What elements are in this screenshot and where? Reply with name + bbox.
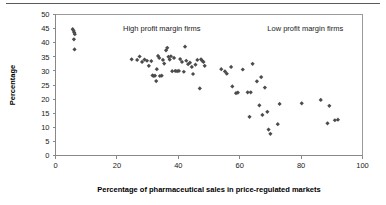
data-point-marker	[230, 84, 234, 88]
y-tick-label: 30	[41, 67, 49, 76]
data-point-marker	[319, 98, 323, 102]
data-point-marker	[191, 72, 195, 76]
y-tick-label: 20	[41, 95, 49, 104]
data-point-marker	[198, 86, 202, 90]
chart-annotation-high-margin: High profit margin firms	[123, 24, 201, 33]
data-point-marker	[300, 101, 304, 105]
y-axis-title: Percentage	[8, 65, 17, 105]
x-tick-label: 40	[174, 161, 182, 170]
x-axis-ticks: 020406080100	[53, 156, 368, 170]
data-point-marker	[229, 65, 233, 69]
data-point-group	[71, 27, 340, 136]
data-point-marker	[130, 57, 134, 61]
data-point-marker	[276, 122, 280, 126]
data-point-marker	[154, 79, 158, 83]
data-point-marker	[265, 110, 269, 114]
data-point-marker	[138, 54, 142, 58]
data-point-marker	[266, 127, 270, 131]
data-point-marker	[250, 62, 254, 66]
y-tick-label: 35	[41, 53, 49, 62]
data-point-marker	[155, 67, 159, 71]
x-tick-label: 60	[236, 161, 244, 170]
data-point-marker	[278, 102, 282, 106]
plot-frame	[56, 15, 363, 156]
y-tick-label: 10	[41, 123, 49, 132]
data-point-marker	[325, 121, 329, 125]
data-point-marker	[161, 58, 165, 62]
data-point-marker	[255, 79, 259, 83]
data-point-marker	[327, 104, 331, 108]
x-tick-label: 80	[297, 161, 305, 170]
data-point-marker	[193, 63, 197, 67]
y-tick-label: 25	[41, 81, 49, 90]
data-point-marker	[184, 59, 188, 63]
annotation-group: High profit margin firmsLow profit margi…	[123, 24, 343, 33]
chart-figure: 05101520253035404550 020406080100 High p…	[0, 0, 386, 205]
data-point-marker	[182, 70, 186, 74]
data-point-marker	[183, 45, 187, 49]
data-point-marker	[241, 67, 245, 71]
x-tick-label: 20	[113, 161, 121, 170]
data-point-marker	[219, 67, 223, 71]
y-tick-label: 45	[41, 24, 49, 33]
chart-annotation-low-margin: Low profit margin firms	[267, 24, 343, 33]
data-point-marker	[247, 115, 251, 119]
y-tick-label: 5	[45, 137, 49, 146]
x-tick-label: 0	[53, 161, 57, 170]
data-point-marker	[72, 47, 76, 51]
data-point-marker	[149, 59, 153, 63]
y-tick-label: 40	[41, 38, 49, 47]
y-tick-label: 15	[41, 109, 49, 118]
data-point-marker	[72, 37, 76, 41]
data-point-marker	[260, 113, 264, 117]
scatter-plot: 05101520253035404550 020406080100 High p…	[0, 0, 386, 205]
data-point-marker	[268, 132, 272, 136]
y-tick-label: 0	[45, 151, 49, 160]
data-point-marker	[336, 118, 340, 122]
data-point-marker	[195, 58, 199, 62]
data-point-marker	[203, 64, 207, 68]
data-point-marker	[257, 103, 261, 107]
data-point-marker	[249, 90, 253, 94]
data-point-marker	[190, 65, 194, 69]
data-point-marker	[162, 61, 166, 65]
data-point-marker	[263, 85, 267, 89]
y-axis-ticks: 05101520253035404550	[41, 10, 55, 160]
data-point-marker	[259, 75, 263, 79]
data-point-marker	[135, 58, 139, 62]
data-point-marker	[333, 118, 337, 122]
x-tick-label: 100	[356, 161, 369, 170]
x-axis-title: Percentage of pharmaceutical sales in pr…	[97, 185, 320, 194]
data-point-marker	[147, 64, 151, 68]
y-tick-label: 50	[41, 10, 49, 19]
